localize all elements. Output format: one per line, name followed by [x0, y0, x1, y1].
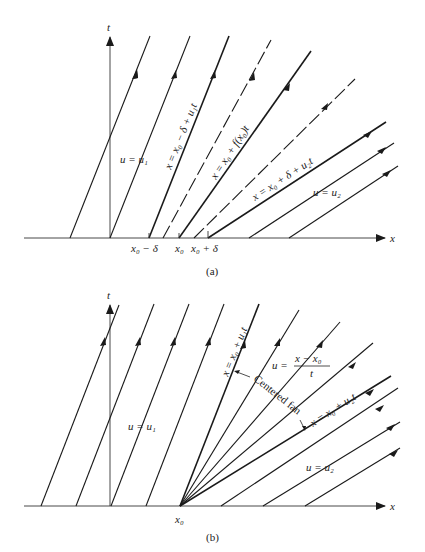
fan-solution-formula: u = x − x₀ t	[272, 352, 330, 379]
t-axis-label-a: t	[107, 21, 111, 33]
fan-solution-numerator: x − x₀	[294, 352, 322, 364]
fan-solution-lhs: u =	[272, 359, 288, 371]
label-left-boundary-b: x = x₀ + u₁t	[218, 324, 249, 378]
fan-solution-denominator: t	[310, 367, 314, 379]
panel-a: x t x₀ − δ x₀	[24, 21, 398, 278]
caption-b: (b)	[206, 531, 219, 544]
panel-b: x t	[24, 289, 400, 544]
label-right-boundary-b: x = x₀ + u₂t	[307, 390, 359, 429]
label-u-equals-u2-b: u = u₂	[306, 461, 334, 473]
t-axis-label-b: t	[107, 289, 111, 301]
tick-x0-minus-delta: x₀ − δ	[130, 242, 159, 254]
centered-fan-label: Centered fan	[252, 372, 304, 417]
label-u-equals-u1-a: u = u₁	[120, 153, 148, 165]
right-characteristics-b	[221, 388, 400, 506]
x-axis-label-a: x	[389, 232, 395, 244]
label-u-equals-u1-b: u = u₁	[128, 420, 156, 432]
left-characteristics-b	[41, 304, 224, 506]
caption-a: (a)	[206, 265, 219, 278]
tick-x0-plus-delta: x₀ + δ	[190, 242, 219, 254]
characteristics-figure: x t x₀ − δ x₀	[0, 0, 425, 552]
label-left-boundary-a: x = x₀ − δ + u₁t	[161, 101, 199, 172]
tick-x0-b: x₀	[174, 513, 184, 525]
tick-x0: x₀	[174, 242, 184, 254]
x-axis-label-b: x	[389, 500, 395, 512]
label-middle-characteristic-a: x = x₀ + f(x₀)t	[207, 122, 253, 182]
label-right-boundary-a: x = x₀ + δ + u₂t	[249, 154, 316, 203]
label-u-equals-u2-a: u = u₂	[313, 186, 341, 198]
